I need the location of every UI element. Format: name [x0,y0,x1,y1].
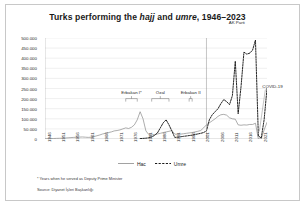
y-tick-label: 400.000 [7,56,37,61]
x-tick-label: 1946 [47,132,52,142]
annotation-label-ak-parti: AK Parti [229,20,245,25]
y-tick-label: 250.000 [7,86,37,91]
x-tick-label: 1986 [162,132,167,142]
y-tick-label: 450.000 [7,46,37,51]
x-tick-label: 1951 [61,132,66,142]
y-tick-label: 100.000 [7,116,37,121]
plot-svg [45,38,267,139]
title-hajj: hajj [140,12,155,22]
legend-key-hac [118,161,134,167]
y-tick-label: 0 [7,137,37,142]
x-tick-label: 1981 [148,132,153,142]
x-tick-label: 1961 [90,132,95,142]
x-tick-label: 1996 [191,132,196,142]
legend-key-umre [155,161,171,167]
annotation-label-erbakan-2: Erbakan II [181,90,201,95]
annotation-label-ozal: Özal [156,90,165,95]
chart-figure: Turks performing the hajj and umre, 1946… [0,0,305,205]
x-tick-label: 2001 [205,132,210,142]
legend-label-hac: Hac [137,161,146,167]
plot-area [45,38,267,139]
x-tick-label: 1976 [133,132,138,142]
x-tick-label: 2006 [220,132,225,142]
y-tick-label: 150.000 [7,106,37,111]
x-tick-label: 1971 [119,132,124,142]
chart-title: Turks performing the hajj and umre, 1946… [0,12,295,22]
title-prefix: Turks performing the [49,12,139,22]
x-tick-label: 2021 [263,132,268,142]
y-tick-label: 300.000 [7,76,37,81]
y-tick-label: 350.000 [7,66,37,71]
annotation-label-erbakan-1: Erbakan I* [121,90,142,95]
x-tick-label: 1991 [176,132,181,142]
title-mid: and [155,12,176,22]
x-tick-label: 1966 [104,132,109,142]
y-tick-label: 500.000 [7,36,37,41]
x-tick-label: 2016 [248,132,253,142]
legend-label-umre: Umre [174,161,186,167]
title-umre: umre [175,12,196,22]
annotation-label-covid-19: COVID-19 [262,84,282,89]
y-tick-label: 50.000 [7,126,37,131]
x-tick-label: 1956 [75,132,80,142]
source-note: Source: Diyanet İşleri Başkanlığı [37,187,93,192]
footnote: * Years when he served as Deputy Prime M… [37,176,122,181]
x-tick-label: 2011 [234,132,239,141]
y-tick-label: 200.000 [7,96,37,101]
chart-legend: HacUmre [0,160,295,167]
